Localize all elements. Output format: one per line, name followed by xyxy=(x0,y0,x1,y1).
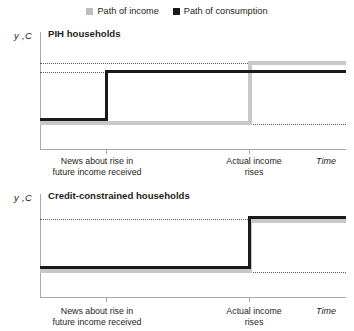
consumption-segment-jump xyxy=(105,70,108,121)
income-segment-high xyxy=(248,219,346,223)
legend-label-income: Path of income xyxy=(97,6,158,16)
plot-area-credit-constrained xyxy=(40,194,346,298)
square-swatch-icon xyxy=(86,8,93,15)
x-tick-news xyxy=(106,149,107,154)
consumption-segment-high xyxy=(248,216,346,219)
x-tick-label-actual: Actual income rises xyxy=(199,156,309,177)
income-segment-high xyxy=(248,61,346,65)
x-tick-label-news: News about rise in future income receive… xyxy=(12,156,182,177)
guide-line-income-low xyxy=(248,124,346,125)
x-tick-label-actual-line2: rises xyxy=(245,167,264,177)
consumption-segment-low xyxy=(40,266,251,269)
chart-panel-credit-constrained: y ,C Credit-constrained households News … xyxy=(0,186,354,331)
income-segment-low xyxy=(40,269,252,273)
x-tick-label-news-line2: future income received xyxy=(53,317,142,327)
square-swatch-icon xyxy=(173,8,180,15)
y-axis-label: y ,C xyxy=(14,192,32,203)
x-tick-label-news-line1: News about rise in xyxy=(61,306,133,316)
x-axis-line xyxy=(40,149,346,150)
legend-label-consumption: Path of consumption xyxy=(184,6,268,16)
x-axis-label: Time xyxy=(303,156,349,167)
x-tick-actual xyxy=(249,297,250,302)
legend-item-income: Path of income xyxy=(86,6,158,16)
x-tick-news xyxy=(106,297,107,302)
chart-panel-pih: y ,C PIH households News about rise in f… xyxy=(0,22,354,172)
legend-item-consumption: Path of consumption xyxy=(173,6,268,16)
consumption-segment-jump xyxy=(248,216,251,269)
income-segment-low xyxy=(40,121,252,125)
y-axis-line xyxy=(40,194,41,298)
chart-legend: Path of income Path of consumption xyxy=(0,6,354,16)
consumption-segment-low xyxy=(40,118,108,121)
x-tick-actual xyxy=(249,149,250,154)
x-tick-label-news: News about rise in future income receive… xyxy=(12,306,182,327)
x-tick-label-news-line2: future income received xyxy=(53,167,142,177)
x-tick-label-actual-line1: Actual income xyxy=(226,306,281,316)
x-tick-label-news-line1: News about rise in xyxy=(61,156,133,166)
x-axis-line xyxy=(40,297,346,298)
guide-line-low xyxy=(248,272,346,273)
x-tick-label-actual-line1: Actual income xyxy=(226,156,281,166)
y-axis-line xyxy=(40,32,41,150)
x-axis-label: Time xyxy=(303,306,349,317)
plot-area-pih xyxy=(40,32,346,150)
y-axis-label: y ,C xyxy=(14,30,32,41)
x-tick-label-actual-line2: rises xyxy=(245,317,264,327)
consumption-segment-high xyxy=(105,70,346,73)
x-tick-label-actual: Actual income rises xyxy=(199,306,309,327)
